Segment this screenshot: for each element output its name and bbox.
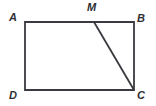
vertex-label-m: M (87, 2, 96, 13)
geometry-figure: A M B D C (0, 0, 156, 106)
vertex-label-b: B (137, 13, 145, 24)
figure-canvas (0, 0, 156, 106)
vertex-label-d: D (9, 90, 17, 101)
vertex-label-c: C (137, 90, 145, 101)
vertex-label-a: A (9, 12, 17, 23)
